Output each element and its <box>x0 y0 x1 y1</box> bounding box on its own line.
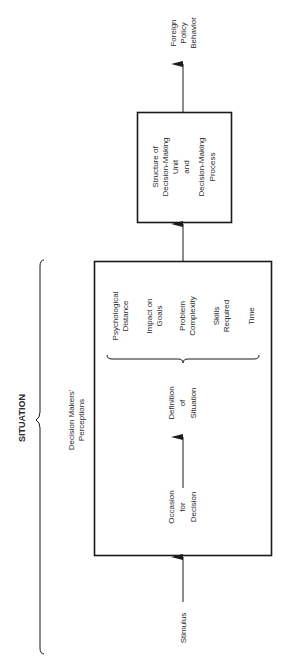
definition-line3: Situation <box>189 387 198 418</box>
factor-impact-line1: Impact on <box>145 298 154 333</box>
perceptions-label-line2: Perceptions <box>77 399 86 441</box>
structure-line1: Structure of <box>151 146 160 188</box>
factor-time: Time <box>247 307 256 325</box>
factor-skills-line1: Skills <box>212 307 221 326</box>
factors-brace <box>106 292 108 355</box>
situation-label: SITUATION <box>17 394 27 442</box>
occasion-line3: Decision <box>189 492 198 523</box>
decision-model-diagram: SITUATION Decision Makers' Perceptions S… <box>0 0 283 666</box>
output-line3: Behavior <box>189 17 198 49</box>
structure-line3: Unit <box>171 159 180 174</box>
factor-psychological-line2: Distance <box>121 300 130 332</box>
definition-line1: Definition <box>167 386 176 419</box>
occasion-line2: for <box>178 502 187 512</box>
structure-line2: Decision-Making <box>161 137 170 196</box>
factor-psychological-line1: Psychological <box>111 291 120 340</box>
structure-line4: and <box>182 160 191 173</box>
occasion-line1: Occasion <box>167 490 176 523</box>
factors-brace-curve <box>107 355 259 363</box>
factor-impact-line2: Goals <box>155 306 164 327</box>
factor-complexity-line2: Complexity <box>188 296 197 336</box>
definition-line2: of <box>178 399 187 406</box>
output-line1: Foreign <box>169 19 178 46</box>
factor-skills-line2: Required <box>222 300 231 332</box>
perceptions-label-line1: Decision Makers' <box>67 389 76 450</box>
factor-complexity-line1: Problem <box>178 301 187 331</box>
stimulus-label: Stimulus <box>179 613 188 644</box>
structure-line6: Process <box>208 153 217 182</box>
situation-brace <box>36 260 44 654</box>
structure-line5: Decision-Making <box>197 137 206 196</box>
output-line2: Policy <box>179 22 188 43</box>
